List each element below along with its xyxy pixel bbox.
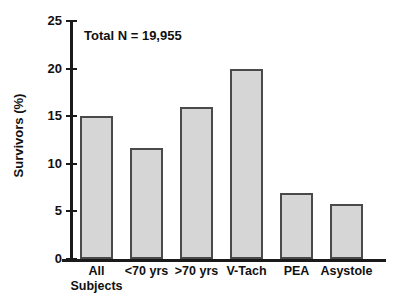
- y-axis-title: Survivors (%): [11, 76, 26, 196]
- y-tick-mark: [66, 68, 77, 70]
- y-tick-mark: [66, 210, 77, 212]
- x-axis-line: [62, 259, 386, 262]
- bar: [130, 148, 163, 259]
- bar: [80, 116, 113, 259]
- bar-chart-figure: Survivors (%) Total N = 19,955 051015202…: [0, 0, 394, 306]
- bar: [280, 193, 313, 259]
- bar: [330, 204, 363, 259]
- chart-annotation-total-n: Total N = 19,955: [84, 28, 182, 43]
- y-tick-label: 15: [24, 109, 62, 122]
- x-tick-label: Asystole: [307, 264, 387, 279]
- y-tick-mark: [66, 20, 77, 22]
- y-tick-label: 10: [24, 157, 62, 170]
- y-tick-mark: [66, 115, 77, 117]
- y-axis-line: [70, 21, 73, 261]
- y-tick-label: 5: [24, 204, 62, 217]
- y-tick-mark: [66, 163, 77, 165]
- y-tick-mark: [66, 258, 77, 260]
- y-tick-label: 25: [24, 14, 62, 27]
- y-tick-label: 20: [24, 62, 62, 75]
- bar: [230, 69, 263, 259]
- bar: [180, 107, 213, 259]
